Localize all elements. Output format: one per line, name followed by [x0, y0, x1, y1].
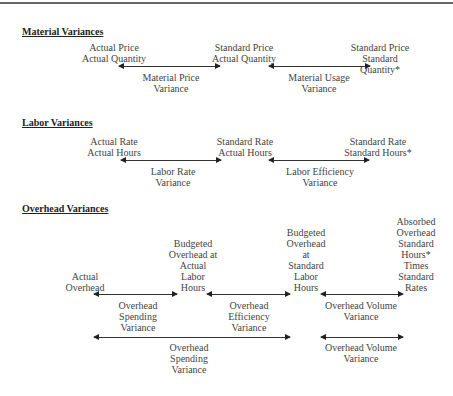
overhead-volume-variance: Overhead Volume Variance [325, 300, 397, 322]
labor-efficiency-arrow [269, 160, 369, 161]
top-rule [0, 2, 453, 4]
overhead-volume-arrow [321, 294, 403, 295]
material-price-variance: Material Price Variance [143, 72, 200, 94]
material-std-price-actual-qty: Standard Price Actual Quantity [212, 42, 276, 64]
overhead-budgeted-standard-hours: Budgeted Overhead at Standard Labor Hour… [287, 227, 326, 293]
overhead-spending-variance-combined: Overhead Spending Variance [170, 342, 209, 375]
overhead-budgeted-actual-hours: Budgeted Overhead at Actual Labor Hours [169, 238, 218, 293]
labor-rate-arrow [121, 160, 221, 161]
overhead-spending-arrow [94, 294, 177, 295]
overhead-volume-arrow-2 [321, 337, 403, 338]
material-heading: Material Variances [22, 26, 103, 37]
overhead-absorbed: Absorbed Overhead Standard Hours* Times … [397, 216, 436, 293]
labor-std-rate-std-hours: Standard Rate Standard Hours* [344, 136, 412, 158]
material-usage-variance: Material Usage Variance [288, 72, 349, 94]
overhead-volume-variance-2: Overhead Volume Variance [325, 342, 397, 364]
overhead-spending-combined-arrow [94, 337, 290, 338]
labor-actual-rate-actual-hours: Actual Rate Actual Hours [87, 136, 141, 158]
material-actual-price-actual-qty: Actual Price Actual Quantity [82, 42, 146, 64]
overhead-efficiency-arrow [207, 294, 290, 295]
labor-efficiency-variance: Labor Efficiency Variance [286, 166, 354, 188]
material-usage-arrow [269, 66, 370, 67]
overhead-efficiency-variance: Overhead Efficiency Variance [228, 300, 269, 333]
labor-rate-variance: Labor Rate Variance [151, 166, 196, 188]
labor-heading: Labor Variances [22, 117, 93, 128]
labor-std-rate-actual-hours: Standard Rate Actual Hours [217, 136, 273, 158]
overhead-actual: Actual Overhead [66, 271, 105, 293]
overhead-spending-variance: Overhead Spending Variance [119, 300, 158, 333]
material-price-arrow [119, 66, 220, 67]
overhead-heading: Overhead Variances [22, 203, 108, 214]
material-std-price-std-qty: Standard Price Standard Quantity* [344, 42, 417, 75]
